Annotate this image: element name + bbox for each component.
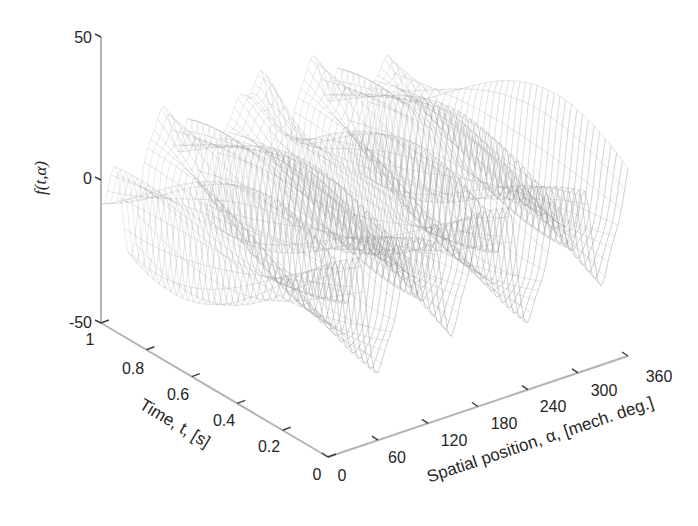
- z-tick-50: 50: [74, 29, 92, 46]
- t-tick-1: 1: [86, 331, 95, 348]
- alpha-tick-120: 120: [441, 432, 468, 449]
- t-tick-0.2: 0.2: [258, 438, 280, 455]
- alpha-tick-60: 60: [388, 449, 406, 466]
- alpha-tick-360: 360: [646, 368, 673, 385]
- alpha-tick-240: 240: [540, 398, 567, 415]
- surface-plot: 50 0 -50 1 0.8 0.6 0.4 0.2 0 0 60 120 18…: [0, 0, 698, 526]
- t-tick-0: 0: [313, 466, 322, 483]
- alpha-tick-180: 180: [491, 415, 518, 432]
- z-tick-neg50: -50: [69, 314, 92, 331]
- surface-mesh: [101, 55, 628, 373]
- z-tick-0: 0: [83, 170, 92, 187]
- t-tick-0.4: 0.4: [213, 412, 235, 429]
- alpha-tick-300: 300: [591, 382, 618, 399]
- z-axis-title: f(t,α): [31, 161, 50, 195]
- t-tick-0.6: 0.6: [167, 386, 189, 403]
- t-axis-title: Time, t, [s]: [136, 395, 213, 452]
- t-axis-line: [101, 323, 328, 457]
- alpha-tick-0: 0: [338, 467, 347, 484]
- t-tick-0.8: 0.8: [122, 360, 144, 377]
